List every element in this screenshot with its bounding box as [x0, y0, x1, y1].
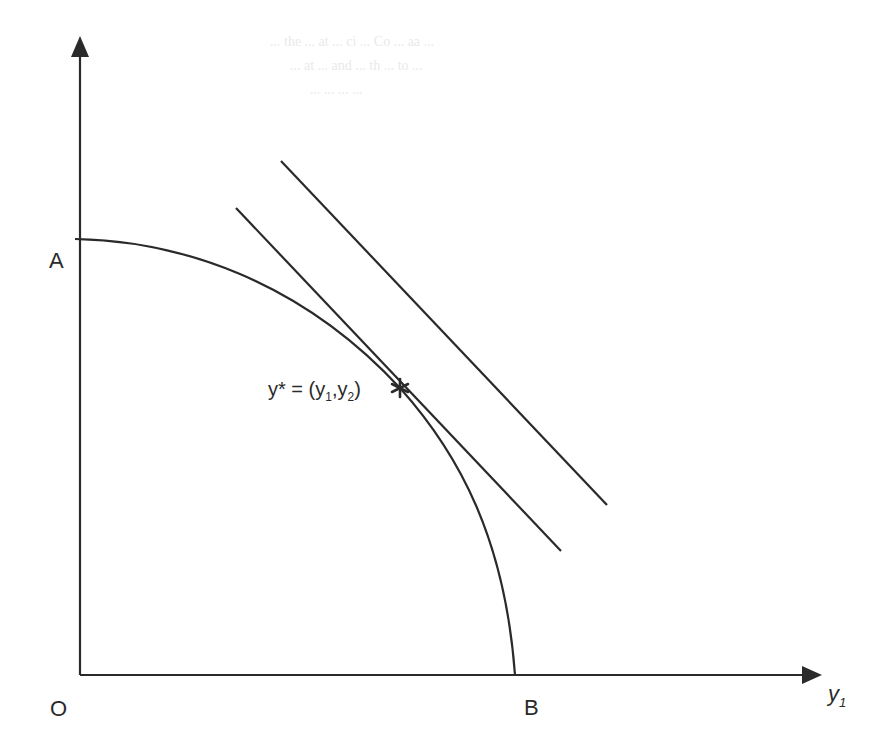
point-a-label: A [49, 250, 64, 272]
x-axis-arrowhead-icon [802, 666, 822, 684]
x-axis-label: y1 [828, 683, 846, 709]
optimum-label-mid: ,y [332, 378, 348, 400]
x-axis-label-text: y [828, 681, 839, 706]
x-axis-label-subscript: 1 [839, 695, 846, 710]
optimum-label-suffix: ) [354, 378, 361, 400]
optimum-point-label: y* = (y1,y2) [268, 379, 361, 403]
frontier-curve [75, 239, 515, 675]
optimum-label-prefix: y* = (y [268, 378, 325, 400]
point-b-label: B [524, 697, 539, 719]
optimum-label-sub1: 1 [325, 390, 332, 404]
origin-label: O [50, 698, 67, 720]
ppf-diagram [0, 0, 884, 753]
y-axis-arrowhead-icon [71, 36, 89, 57]
outer-isorevenue-line [281, 161, 607, 505]
